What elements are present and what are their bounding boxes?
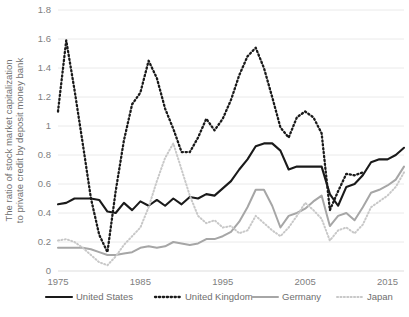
series-group — [58, 40, 404, 265]
series-line-japan — [58, 143, 404, 265]
legend-label-japan: Japan — [367, 291, 393, 302]
y-axis-title: The ratio of stock market capitalization… — [3, 58, 25, 224]
x-axis-tick-label: 2015 — [377, 276, 398, 287]
series-line-united-kingdom — [58, 40, 363, 252]
y-axis-tick-label: 1.4 — [38, 62, 51, 73]
y-axis-tick-label: 0.4 — [38, 207, 51, 218]
y-axis-tick-label: 0 — [46, 265, 51, 276]
legend-label-united-states: United States — [76, 291, 133, 302]
x-axis-tick-label: 1995 — [212, 276, 233, 287]
legend-label-united-kingdom: United Kingdom — [185, 291, 253, 302]
chart-container: 00.20.40.60.811.21.41.61.8 1975198519952… — [0, 0, 409, 317]
y-axis-tick-label: 0.2 — [38, 236, 51, 247]
series-line-united-states — [58, 143, 404, 213]
y-axis-ticks: 00.20.40.60.811.21.41.61.8 — [38, 4, 51, 276]
y-axis-title: The ratio of stock market capitalization — [3, 59, 14, 221]
y-axis-tick-label: 1.6 — [38, 33, 51, 44]
y-axis-tick-label: 1.2 — [38, 91, 51, 102]
y-axis-tick-label: 0.6 — [38, 178, 51, 189]
x-axis-tick-label: 1975 — [47, 276, 68, 287]
chart-legend: United StatesUnited KingdomGermanyJapan — [46, 291, 393, 302]
line-chart: 00.20.40.60.811.21.41.61.8 1975198519952… — [0, 0, 409, 317]
y-axis-tick-label: 0.8 — [38, 149, 51, 160]
y-axis-tick-label: 1.8 — [38, 4, 51, 15]
x-axis-tick-label: 2005 — [295, 276, 316, 287]
y-axis-title: to private credit by deposit money bank — [14, 58, 25, 224]
legend-label-germany: Germany — [282, 291, 321, 302]
x-axis-ticks: 19751985199520052015 — [47, 276, 398, 287]
y-axis-tick-label: 1 — [46, 120, 51, 131]
x-axis-tick-label: 1985 — [130, 276, 151, 287]
